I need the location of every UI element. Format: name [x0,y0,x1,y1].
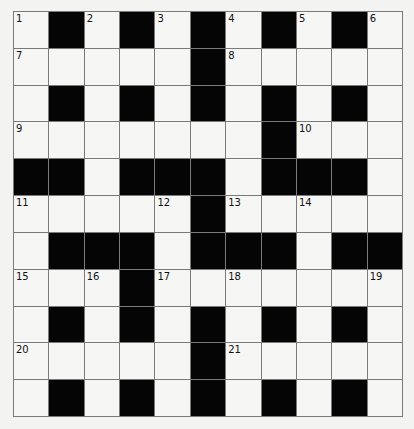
crossword-cell[interactable] [297,233,331,269]
crossword-cell[interactable] [368,343,402,379]
crossword-cell[interactable] [191,122,225,158]
crossword-cell[interactable] [85,196,119,232]
crossword-cell[interactable] [49,49,83,85]
black-square [85,233,119,269]
crossword-cell[interactable]: 21 [226,343,260,379]
clue-number: 8 [228,50,234,61]
crossword-cell[interactable] [262,49,296,85]
crossword-cell[interactable] [155,380,189,416]
crossword-cell[interactable]: 19 [368,270,402,306]
crossword-cell[interactable]: 7 [14,49,48,85]
crossword-cell[interactable] [49,122,83,158]
crossword-cell[interactable]: 6 [368,12,402,48]
crossword-cell[interactable]: 12 [155,196,189,232]
crossword-cell[interactable] [14,86,48,122]
crossword-cell[interactable] [297,86,331,122]
clue-number: 12 [157,197,170,208]
black-square [262,307,296,343]
crossword-cell[interactable] [297,343,331,379]
crossword-cell[interactable] [120,196,154,232]
crossword-cell[interactable] [85,49,119,85]
black-square [226,233,260,269]
crossword-cell[interactable] [226,307,260,343]
black-square [262,380,296,416]
crossword-cell[interactable] [297,380,331,416]
crossword-cell[interactable]: 9 [14,122,48,158]
crossword-cell[interactable]: 5 [297,12,331,48]
clue-number: 4 [228,13,234,24]
black-square [49,233,83,269]
crossword-cell[interactable] [226,380,260,416]
crossword-cell[interactable] [155,233,189,269]
crossword-cell[interactable] [297,307,331,343]
crossword-cell[interactable]: 20 [14,343,48,379]
crossword-cell[interactable] [368,122,402,158]
crossword-cell[interactable] [85,343,119,379]
black-square [262,86,296,122]
crossword-cell[interactable] [14,307,48,343]
crossword-cell[interactable] [332,49,366,85]
clue-number: 16 [87,271,100,282]
crossword-cell[interactable] [14,380,48,416]
crossword-cell[interactable] [85,380,119,416]
crossword-cell[interactable]: 8 [226,49,260,85]
black-square [49,12,83,48]
crossword-cell[interactable] [332,122,366,158]
crossword-cell[interactable] [191,270,225,306]
crossword-cell[interactable] [49,196,83,232]
crossword-cell[interactable]: 11 [14,196,48,232]
crossword-cell[interactable] [14,233,48,269]
crossword-cell[interactable] [332,343,366,379]
crossword-cell[interactable]: 4 [226,12,260,48]
crossword-cell[interactable] [49,343,83,379]
crossword-cell[interactable] [49,270,83,306]
crossword-cell[interactable]: 15 [14,270,48,306]
crossword-cell[interactable] [332,270,366,306]
crossword-cell[interactable] [368,159,402,195]
crossword-cell[interactable] [120,343,154,379]
black-square [49,159,83,195]
crossword-cell[interactable] [368,307,402,343]
crossword-cell[interactable] [155,122,189,158]
crossword-cell[interactable] [226,159,260,195]
crossword-cell[interactable]: 1 [14,12,48,48]
crossword-cell[interactable] [297,270,331,306]
crossword-cell[interactable] [262,343,296,379]
crossword-cell[interactable] [368,196,402,232]
crossword-cell[interactable]: 16 [85,270,119,306]
black-square [332,233,366,269]
crossword-cell[interactable] [262,196,296,232]
crossword-cell[interactable] [85,86,119,122]
black-square [191,343,225,379]
crossword-cell[interactable] [85,122,119,158]
crossword-cell[interactable] [155,343,189,379]
crossword-cell[interactable] [368,49,402,85]
crossword-cell[interactable] [85,159,119,195]
crossword-cell[interactable]: 2 [85,12,119,48]
black-square [120,307,154,343]
crossword-cell[interactable] [368,380,402,416]
crossword-cell[interactable] [332,196,366,232]
black-square [120,233,154,269]
crossword-cell[interactable] [226,86,260,122]
crossword-cell[interactable]: 13 [226,196,260,232]
crossword-grid: 123456789101112131415161718192021 [13,11,403,417]
crossword-cell[interactable] [155,307,189,343]
crossword-cell[interactable]: 18 [226,270,260,306]
black-square [191,12,225,48]
crossword-cell[interactable] [297,49,331,85]
crossword-cell[interactable] [155,86,189,122]
crossword-cell[interactable] [155,49,189,85]
crossword-cell[interactable] [120,49,154,85]
crossword-cell[interactable] [120,122,154,158]
clue-number: 19 [370,271,383,282]
crossword-cell[interactable] [85,307,119,343]
black-square [297,159,331,195]
crossword-cell[interactable]: 3 [155,12,189,48]
crossword-cell[interactable]: 10 [297,122,331,158]
crossword-cell[interactable]: 17 [155,270,189,306]
crossword-cell[interactable]: 14 [297,196,331,232]
crossword-cell[interactable] [368,86,402,122]
crossword-cell[interactable] [262,270,296,306]
crossword-cell[interactable] [226,122,260,158]
